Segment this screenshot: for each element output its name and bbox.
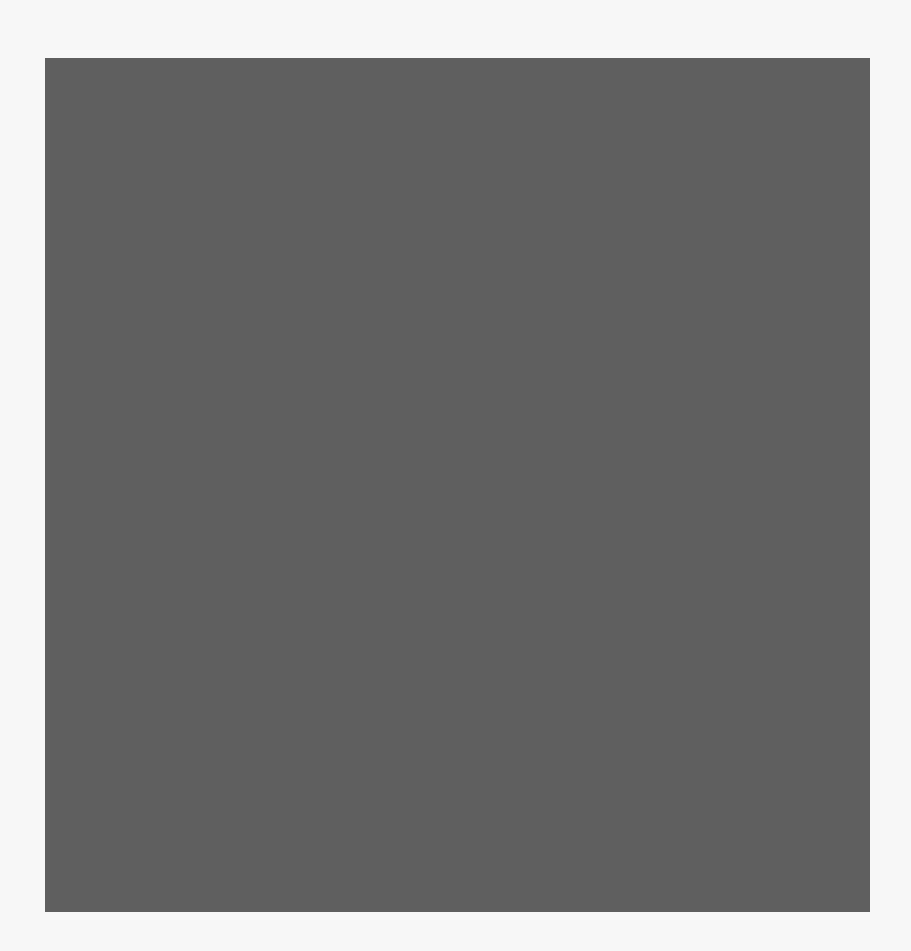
puzzle-grid (45, 58, 870, 912)
